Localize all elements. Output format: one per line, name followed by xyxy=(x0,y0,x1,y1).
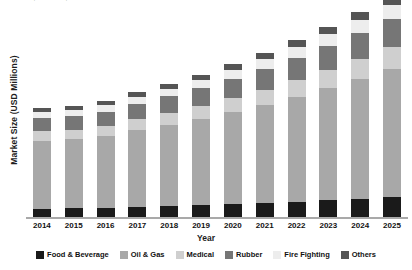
bar-segment-medical[interactable] xyxy=(319,70,337,88)
bar-segment-oil-gas[interactable] xyxy=(192,119,210,205)
x-tick-label: 2020 xyxy=(217,221,248,230)
x-tick-label: 2015 xyxy=(58,221,89,230)
bar-segment-rubber[interactable] xyxy=(351,33,369,59)
bar-column[interactable] xyxy=(281,4,312,218)
stacked-bar[interactable] xyxy=(128,92,146,218)
bar-segment-rubber[interactable] xyxy=(288,58,306,80)
bar-segment-fire-fighting[interactable] xyxy=(128,97,146,104)
bar-segment-oil-gas[interactable] xyxy=(383,69,401,197)
bar-segment-medical[interactable] xyxy=(224,98,242,112)
x-tick-label: 2022 xyxy=(281,221,312,230)
x-tick-label: 2014 xyxy=(26,221,57,230)
bar-segment-oil-gas[interactable] xyxy=(33,141,51,209)
bar-segment-medical[interactable] xyxy=(192,106,210,119)
bar-column[interactable]: 1,776.7 xyxy=(58,4,89,218)
bar-column[interactable]: 1,745.9 xyxy=(26,4,57,218)
bar-segment-fire-fighting[interactable] xyxy=(160,89,178,97)
bar-segment-fire-fighting[interactable] xyxy=(351,20,369,33)
bar-segment-rubber[interactable] xyxy=(33,118,51,131)
stacked-bar[interactable] xyxy=(256,53,274,218)
bar-segment-fire-fighting[interactable] xyxy=(224,70,242,79)
bar-column[interactable] xyxy=(345,4,376,218)
bar-segment-food-beverage[interactable] xyxy=(383,197,401,218)
x-tick-label: 2017 xyxy=(122,221,153,230)
bar-segment-medical[interactable] xyxy=(160,113,178,125)
legend-swatch-icon xyxy=(341,251,349,259)
bar-column[interactable] xyxy=(377,4,408,218)
stacked-bar[interactable] xyxy=(383,0,401,218)
bar-segment-rubber[interactable] xyxy=(192,88,210,106)
bar-segment-food-beverage[interactable] xyxy=(319,200,337,218)
legend-swatch-icon xyxy=(273,251,281,259)
bar-column[interactable] xyxy=(217,4,248,218)
bar-segment-oil-gas[interactable] xyxy=(224,112,242,204)
bar-column[interactable] xyxy=(249,4,280,218)
bar-segment-fire-fighting[interactable] xyxy=(256,59,274,69)
bar-segment-rubber[interactable] xyxy=(224,79,242,98)
bar-column[interactable] xyxy=(90,4,121,218)
legend-item[interactable]: Food & Beverage xyxy=(36,250,109,259)
bar-segment-oil-gas[interactable] xyxy=(160,125,178,206)
bar-segment-food-beverage[interactable] xyxy=(224,204,242,218)
legend-item[interactable]: Oil & Gas xyxy=(120,250,165,259)
bar-segment-medical[interactable] xyxy=(97,126,115,136)
bar-column[interactable] xyxy=(186,4,217,218)
x-tick-label: 2016 xyxy=(90,221,121,230)
bar-segment-medical[interactable] xyxy=(128,119,146,130)
stacked-bar[interactable] xyxy=(224,64,242,218)
bar-column[interactable] xyxy=(313,4,344,218)
stacked-bar[interactable]: 1,776.7 xyxy=(65,106,83,218)
legend-swatch-icon xyxy=(225,251,233,259)
bar-segment-rubber[interactable] xyxy=(383,19,401,47)
legend-swatch-icon xyxy=(176,251,184,259)
stacked-bar[interactable] xyxy=(319,27,337,218)
legend-item-label: Oil & Gas xyxy=(131,250,165,259)
stacked-bar[interactable] xyxy=(288,40,306,218)
bar-column[interactable] xyxy=(122,4,153,218)
bar-column[interactable] xyxy=(154,4,185,218)
bar-segment-medical[interactable] xyxy=(256,90,274,105)
bar-segment-fire-fighting[interactable] xyxy=(383,5,401,19)
bar-segment-medical[interactable] xyxy=(383,47,401,69)
stacked-bar[interactable] xyxy=(97,101,115,218)
bar-segment-rubber[interactable] xyxy=(128,104,146,119)
bar-segment-food-beverage[interactable] xyxy=(351,199,369,219)
bar-segment-rubber[interactable] xyxy=(97,112,115,126)
x-axis-line xyxy=(26,217,408,219)
bar-segment-medical[interactable] xyxy=(33,131,51,140)
bar-segment-oil-gas[interactable] xyxy=(128,130,146,206)
x-tick-label: 2019 xyxy=(186,221,217,230)
bar-segment-oil-gas[interactable] xyxy=(256,105,274,203)
bar-segment-fire-fighting[interactable] xyxy=(192,80,210,88)
bar-segment-medical[interactable] xyxy=(65,130,83,140)
legend-item[interactable]: Fire Fighting xyxy=(273,250,329,259)
legend-item[interactable]: Others xyxy=(341,250,376,259)
bar-segment-oil-gas[interactable] xyxy=(97,136,115,208)
bar-segment-medical[interactable] xyxy=(288,80,306,97)
bar-segment-rubber[interactable] xyxy=(256,69,274,89)
bar-segment-fire-fighting[interactable] xyxy=(288,47,306,58)
bar-segment-oil-gas[interactable] xyxy=(351,79,369,199)
legend-item-label: Rubber xyxy=(236,250,262,259)
bar-segment-rubber[interactable] xyxy=(65,116,83,130)
chart-figure: Market Size (USD Millions) 1,745.91,776.… xyxy=(0,0,412,270)
legend-item[interactable]: Rubber xyxy=(225,250,262,259)
bar-segment-rubber[interactable] xyxy=(160,96,178,112)
bar-segment-food-beverage[interactable] xyxy=(288,202,306,218)
bar-segment-rubber[interactable] xyxy=(319,46,337,70)
bar-segment-oil-gas[interactable] xyxy=(65,139,83,208)
stacked-bar[interactable] xyxy=(160,84,178,218)
bar-segment-food-beverage[interactable] xyxy=(256,203,274,218)
bar-segment-medical[interactable] xyxy=(351,59,369,79)
stacked-bar[interactable] xyxy=(351,12,369,218)
stacked-bar[interactable] xyxy=(192,75,210,218)
x-axis-tick-labels: 2014201520162017201820192020202120222023… xyxy=(26,221,408,230)
legend-item-label: Food & Beverage xyxy=(47,250,109,259)
stacked-bar[interactable]: 1,745.9 xyxy=(33,108,51,218)
bar-segment-others[interactable] xyxy=(351,12,369,20)
legend-item[interactable]: Medical xyxy=(176,250,215,259)
bar-segment-fire-fighting[interactable] xyxy=(319,34,337,46)
bar-segment-oil-gas[interactable] xyxy=(319,88,337,200)
bar-segment-oil-gas[interactable] xyxy=(288,97,306,202)
bar-segment-others[interactable] xyxy=(319,27,337,34)
